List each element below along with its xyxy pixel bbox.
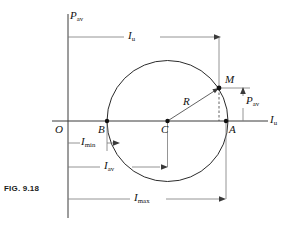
point-marker-b [105,119,109,123]
point-label-m: M [225,74,234,85]
point-label-c: C [161,124,168,135]
dimension-label-top-current: Iu [128,30,135,41]
dimension-label-average-current: Iav [104,160,114,171]
imin-dim-arrowhead [113,140,120,146]
iav-dim-arrowhead [161,164,168,170]
radius-line [168,88,220,121]
dimension-label-maximum-current: Imax [134,192,150,203]
vertical-axis-label: Pav [70,10,83,21]
horizontal-axis-label: Iu [270,114,277,125]
point-marker-a [224,119,228,123]
dimension-label-vertical-power: Pav [246,95,259,106]
point-marker-m [217,86,222,91]
figure-caption: FIG. 9.18 [4,184,39,193]
point-label-origin: O [55,124,63,135]
point-label-a: A [229,124,236,135]
imax-dim-arrowhead [219,196,226,202]
top-dim-arrowhead [214,34,221,40]
radius-label: R [183,96,190,107]
point-label-b: B [98,124,105,135]
dimension-label-minimum-current: Imin [81,136,96,147]
